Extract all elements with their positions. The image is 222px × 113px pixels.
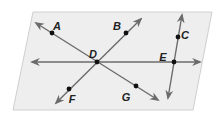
point-label-c: C xyxy=(181,29,190,41)
point-e xyxy=(172,60,177,65)
point-f xyxy=(67,87,72,92)
point-label-f: F xyxy=(69,93,76,105)
point-label-b: B xyxy=(113,20,121,32)
point-label-e: E xyxy=(159,51,167,63)
diagram-svg: ABCDEFG xyxy=(0,0,222,113)
point-g xyxy=(134,84,139,89)
point-label-d: D xyxy=(89,48,97,60)
point-d xyxy=(95,60,100,65)
point-c xyxy=(176,35,181,40)
geometry-diagram: ABCDEFG xyxy=(0,0,222,113)
point-label-a: A xyxy=(52,20,61,32)
point-label-g: G xyxy=(122,91,131,103)
point-b xyxy=(124,31,129,36)
